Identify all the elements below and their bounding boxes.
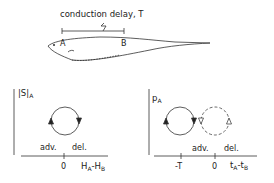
left-adv-label: adv. xyxy=(40,144,57,152)
right-del-label: del. xyxy=(224,145,239,153)
left-ylabel: |S|A xyxy=(18,89,33,99)
left-axes xyxy=(14,89,108,159)
fish-outline xyxy=(48,37,210,61)
right-zero-tick: 0 xyxy=(212,163,217,171)
left-del-label: del. xyxy=(72,144,87,152)
conduction-delay-label: conduction delay, T xyxy=(60,10,144,19)
right-ylabel: pA xyxy=(152,94,162,104)
right-solid-loop xyxy=(164,107,197,135)
left-xlabel: HA-HB xyxy=(81,162,105,172)
right-dashed-loop xyxy=(199,107,232,135)
right-xlabel: tA-tB xyxy=(230,161,248,171)
delay-bracket xyxy=(62,23,124,34)
diagram-graphics xyxy=(0,0,274,183)
left-hysteresis-loop xyxy=(49,107,82,135)
right-adv-label: adv. xyxy=(192,145,209,153)
point-b-label: B xyxy=(121,40,127,48)
right-minus-t-tick: -T xyxy=(175,163,182,171)
point-a-label: A xyxy=(60,40,65,48)
left-zero-tick: 0 xyxy=(61,163,66,171)
